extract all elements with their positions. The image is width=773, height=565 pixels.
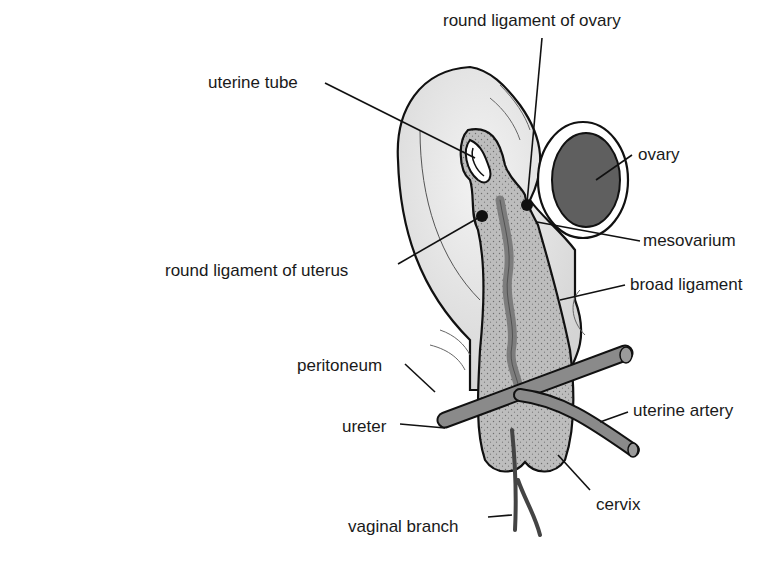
label-cervix: cervix: [596, 496, 640, 513]
label-vaginal-branch: vaginal branch: [348, 518, 459, 535]
round-ligament-uterus-dot: [476, 210, 488, 222]
label-round-ligament-of-ovary: round ligament of ovary: [443, 12, 621, 29]
label-broad-ligament: broad ligament: [630, 276, 742, 293]
label-round-ligament-of-uterus: round ligament of uterus: [165, 262, 348, 279]
label-peritoneum: peritoneum: [297, 357, 382, 374]
label-uterine-tube: uterine tube: [208, 74, 298, 91]
label-ureter: ureter: [342, 418, 386, 435]
label-ovary: ovary: [638, 146, 680, 163]
label-uterine-artery: uterine artery: [633, 402, 733, 419]
label-mesovarium: mesovarium: [643, 232, 736, 249]
